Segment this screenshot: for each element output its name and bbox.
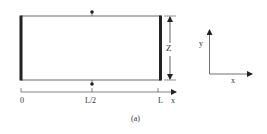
x-axis [21,88,176,92]
frame-y-label: y [199,40,203,48]
tick-label-l: L [158,97,163,105]
x-axis-label: x [171,97,175,105]
z-dimension-label: Z [166,44,172,52]
left-wall [20,16,23,81]
tick-label-half-l: L/2 [85,97,96,105]
bottom-probe-marker [90,80,94,86]
frame-x-label: x [231,77,235,85]
right-wall [159,16,162,81]
domain-rectangle [21,16,161,80]
tick-label-0: 0 [20,97,24,105]
coordinate-frame [210,30,253,74]
top-probe-marker [90,10,94,16]
figure-caption: (a) [131,115,140,123]
